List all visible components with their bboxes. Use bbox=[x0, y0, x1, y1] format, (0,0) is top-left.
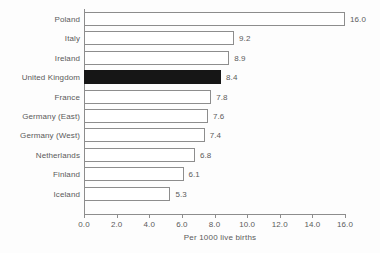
bar bbox=[84, 51, 229, 65]
category-label: United Kingdom bbox=[22, 73, 80, 82]
x-tick-label: 8.0 bbox=[209, 220, 220, 229]
bar-row: Germany (East)7.6 bbox=[84, 109, 345, 123]
bar bbox=[84, 70, 221, 84]
bar-value-label: 5.3 bbox=[175, 189, 186, 198]
bar-row: United Kingdom8.4 bbox=[84, 70, 345, 84]
bar-row: France7.8 bbox=[84, 90, 345, 104]
x-tick bbox=[345, 214, 346, 218]
bar bbox=[84, 128, 205, 142]
x-tick bbox=[182, 214, 183, 218]
x-tick bbox=[215, 214, 216, 218]
bar bbox=[84, 90, 211, 104]
bar-row: Netherlands6.8 bbox=[84, 148, 345, 162]
category-label: Ireland bbox=[55, 53, 80, 62]
bar-value-label: 7.6 bbox=[213, 112, 224, 121]
x-tick-label: 6.0 bbox=[176, 220, 187, 229]
category-label: Germany (West) bbox=[20, 131, 80, 140]
category-label: Poland bbox=[54, 15, 80, 24]
x-tick bbox=[280, 214, 281, 218]
bar-value-label: 6.1 bbox=[189, 170, 200, 179]
bar-value-label: 16.0 bbox=[350, 15, 366, 24]
x-tick-label: 14.0 bbox=[304, 220, 320, 229]
x-tick-label: 4.0 bbox=[144, 220, 155, 229]
chart-figure: 0.02.04.06.08.010.012.014.016.0 Poland16… bbox=[0, 0, 380, 253]
category-label: Finland bbox=[53, 170, 80, 179]
bar-value-label: 7.8 bbox=[216, 92, 227, 101]
bar-value-label: 8.9 bbox=[234, 53, 245, 62]
category-label: Netherlands bbox=[36, 150, 80, 159]
x-tick bbox=[84, 214, 85, 218]
bar-row: Ireland8.9 bbox=[84, 51, 345, 65]
x-tick bbox=[149, 214, 150, 218]
x-axis-title: Per 1000 live births bbox=[0, 233, 380, 242]
bar-value-label: 8.4 bbox=[226, 73, 237, 82]
bar-value-label: 9.2 bbox=[239, 34, 250, 43]
x-tick bbox=[117, 214, 118, 218]
x-tick-label: 10.0 bbox=[239, 220, 255, 229]
bar-row: Poland16.0 bbox=[84, 12, 345, 26]
bar bbox=[84, 167, 184, 181]
bar-value-label: 7.4 bbox=[210, 131, 221, 140]
x-tick bbox=[312, 214, 313, 218]
category-label: Iceland bbox=[54, 189, 81, 198]
x-tick bbox=[247, 214, 248, 218]
bar-row: Iceland5.3 bbox=[84, 187, 345, 201]
bar bbox=[84, 31, 234, 45]
x-axis-title-text: Per 1000 live births bbox=[124, 233, 256, 242]
x-tick-label: 2.0 bbox=[111, 220, 122, 229]
x-tick-label: 0.0 bbox=[78, 220, 89, 229]
bar-value-label: 6.8 bbox=[200, 150, 211, 159]
category-label: France bbox=[55, 92, 81, 101]
bar bbox=[84, 187, 170, 201]
x-tick-label: 12.0 bbox=[272, 220, 288, 229]
bar bbox=[84, 148, 195, 162]
bar-row: Germany (West)7.4 bbox=[84, 128, 345, 142]
bar-row: Finland6.1 bbox=[84, 167, 345, 181]
x-tick-label: 16.0 bbox=[337, 220, 353, 229]
category-label: Germany (East) bbox=[22, 112, 80, 121]
bar-row: Italy9.2 bbox=[84, 31, 345, 45]
bar bbox=[84, 12, 345, 26]
bar bbox=[84, 109, 208, 123]
category-label: Italy bbox=[65, 34, 80, 43]
